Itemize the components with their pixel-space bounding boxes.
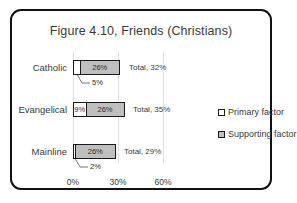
bar-value-primary-evangelical: 9% bbox=[74, 105, 85, 114]
category-label-evangelical: Evangelical bbox=[18, 102, 67, 117]
legend-label-supporting-factor: Supporting factor bbox=[228, 129, 285, 139]
total-label-mainline: Total, 29% bbox=[124, 144, 161, 159]
bar-value-supporting-mainline: 26% bbox=[88, 147, 103, 156]
total-label-catholic: Total, 32% bbox=[129, 60, 166, 75]
bar-segment-primary-evangelical[interactable]: 9% bbox=[73, 102, 87, 117]
chart-row-catholic: Catholic 5% 26% 5% Total, 32% bbox=[73, 51, 213, 93]
figure-title: Figure 4.10, Friends (Christians) bbox=[12, 24, 270, 38]
legend-label-primary-factor: Primary factor bbox=[228, 107, 284, 117]
x-axis-tick-2: 60% bbox=[154, 177, 171, 187]
x-axis: 0% 30% 60% bbox=[73, 177, 213, 193]
gray-square-icon bbox=[218, 131, 225, 138]
bar-segment-supporting-mainline[interactable]: 26% bbox=[75, 144, 116, 159]
white-square-icon bbox=[218, 109, 225, 116]
x-axis-tick-0: 0% bbox=[67, 177, 79, 187]
bar-value-supporting-evangelical: 26% bbox=[97, 105, 112, 114]
legend-item-supporting-factor[interactable]: Supporting factor bbox=[218, 129, 285, 139]
category-label-catholic: Catholic bbox=[33, 60, 67, 75]
chart-row-evangelical: Evangelical 9% 26% Total, 35% bbox=[73, 93, 213, 135]
callout-leader-mainline bbox=[75, 159, 84, 168]
stacked-bar-catholic: 5% 26% bbox=[73, 60, 121, 75]
x-axis-tick-1: 30% bbox=[109, 177, 126, 187]
chart-row-mainline: Mainline 2% 26% 2% Total, 29% bbox=[73, 135, 213, 177]
stacked-bar-evangelical: 9% 26% bbox=[73, 102, 126, 117]
stacked-bar-mainline: 2% 26% bbox=[73, 144, 117, 159]
chart-legend: Primary factor Supporting factor bbox=[218, 107, 285, 151]
total-label-evangelical: Total, 35% bbox=[133, 102, 170, 117]
callout-value-mainline: 2% bbox=[90, 162, 101, 171]
figure-frame: Figure 4.10, Friends (Christians) Cathol… bbox=[10, 9, 272, 190]
bar-value-supporting-catholic: 26% bbox=[92, 63, 107, 72]
callout-leader-catholic bbox=[77, 75, 86, 84]
bar-segment-supporting-catholic[interactable]: 26% bbox=[80, 60, 121, 75]
chart-plot-area: Catholic 5% 26% 5% Total, 32% Evangelica… bbox=[73, 51, 213, 177]
legend-item-primary-factor[interactable]: Primary factor bbox=[218, 107, 285, 117]
bar-segment-supporting-evangelical[interactable]: 26% bbox=[86, 102, 125, 117]
callout-value-catholic: 5% bbox=[92, 78, 103, 87]
category-label-mainline: Mainline bbox=[32, 144, 67, 159]
